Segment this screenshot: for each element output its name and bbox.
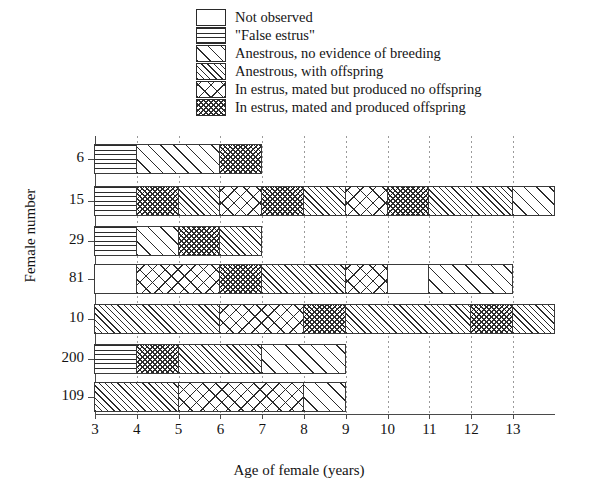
x-tick-label-6: 6 bbox=[205, 421, 235, 438]
legend-item-anestrous-no-breeding[interactable]: Anestrous, no evidence of breeding bbox=[196, 44, 592, 62]
y-axis-title: Female number bbox=[22, 146, 39, 326]
bar-segment-10-anestrous-offspring[interactable] bbox=[94, 304, 220, 334]
x-tick-7 bbox=[262, 414, 263, 419]
y-tick-29 bbox=[88, 241, 94, 242]
bar-segment-15-anestrous-offspring[interactable] bbox=[428, 186, 513, 216]
bar-segment-81-anestrous-no-breeding[interactable] bbox=[428, 264, 513, 294]
x-tick-label-5: 5 bbox=[164, 421, 194, 438]
bar-segment-10-estrus-offspring[interactable] bbox=[470, 304, 513, 334]
x-tick-label-11: 11 bbox=[414, 421, 444, 438]
x-tick-label-13: 13 bbox=[498, 421, 528, 438]
x-tick-5 bbox=[179, 414, 180, 419]
bar-segment-15-estrus-offspring[interactable] bbox=[136, 186, 179, 216]
legend-swatch-anestrous-no-breeding bbox=[196, 45, 226, 62]
legend-label-estrus-no-offspring: In estrus, mated but produced no offspri… bbox=[235, 81, 482, 98]
bar-segment-200-anestrous-offspring[interactable] bbox=[178, 344, 263, 374]
legend-item-not-observed[interactable]: Not observed bbox=[196, 8, 592, 26]
y-tick-81 bbox=[88, 279, 94, 280]
x-tick-4 bbox=[137, 414, 138, 419]
bar-segment-15-anestrous-offspring[interactable] bbox=[178, 186, 221, 216]
bar-segment-200-anestrous-no-breeding[interactable] bbox=[261, 344, 346, 374]
legend-item-estrus-offspring[interactable]: In estrus, mated and produced offspring bbox=[196, 98, 592, 116]
bar-segment-15-estrus-no-offspring[interactable] bbox=[219, 186, 262, 216]
bar-segment-109-anestrous-no-breeding[interactable] bbox=[303, 382, 346, 412]
x-axis-title: Age of female (years) bbox=[0, 462, 598, 479]
legend-swatch-anestrous-offspring bbox=[196, 63, 226, 80]
x-tick-11 bbox=[429, 414, 430, 419]
bar-segment-81-estrus-offspring[interactable] bbox=[219, 264, 262, 294]
bar-segment-15-estrus-no-offspring[interactable] bbox=[345, 186, 388, 216]
bar-segment-10-estrus-no-offspring[interactable] bbox=[219, 304, 304, 334]
x-tick-label-12: 12 bbox=[456, 421, 486, 438]
bar-segment-200-estrus-offspring[interactable] bbox=[136, 344, 179, 374]
bar-segment-29-false-estrus[interactable] bbox=[94, 226, 137, 256]
x-tick-3 bbox=[95, 414, 96, 419]
bar-segment-200-false-estrus[interactable] bbox=[94, 344, 137, 374]
bar-segment-29-anestrous-offspring[interactable] bbox=[219, 226, 262, 256]
bar-segment-15-anestrous-offspring[interactable] bbox=[303, 186, 346, 216]
bar-segment-6-estrus-offspring[interactable] bbox=[219, 144, 262, 174]
y-tick-10 bbox=[88, 319, 94, 320]
x-tick-12 bbox=[471, 414, 472, 419]
bar-segment-15-false-estrus[interactable] bbox=[94, 186, 137, 216]
x-axis-line bbox=[95, 414, 555, 415]
x-tick-8 bbox=[304, 414, 305, 419]
legend-label-estrus-offspring: In estrus, mated and produced offspring bbox=[235, 99, 466, 116]
bar-segment-6-anestrous-no-breeding[interactable] bbox=[136, 144, 221, 174]
bar-segment-81-not-observed[interactable] bbox=[94, 264, 137, 294]
legend-label-anestrous-offspring: Anestrous, with offspring bbox=[235, 63, 383, 80]
table-row bbox=[95, 304, 555, 334]
bar-segment-15-anestrous-no-breeding[interactable] bbox=[512, 186, 555, 216]
x-tick-9 bbox=[346, 414, 347, 419]
legend-swatch-not-observed bbox=[196, 9, 226, 26]
y-tick-label-200: 200 bbox=[24, 349, 84, 366]
bar-segment-15-estrus-offspring[interactable] bbox=[261, 186, 304, 216]
legend-label-false-estrus: "False estrus" bbox=[235, 27, 315, 44]
table-row bbox=[95, 264, 555, 294]
x-tick-6 bbox=[220, 414, 221, 419]
legend-label-anestrous-no-breeding: Anestrous, no evidence of breeding bbox=[235, 45, 441, 62]
x-tick-label-7: 7 bbox=[247, 421, 277, 438]
bar-segment-81-estrus-no-offspring[interactable] bbox=[345, 264, 388, 294]
table-row bbox=[95, 382, 555, 412]
legend-swatch-estrus-offspring bbox=[196, 99, 226, 116]
y-tick-label-109: 109 bbox=[24, 387, 84, 404]
table-row bbox=[95, 226, 555, 256]
x-tick-label-10: 10 bbox=[373, 421, 403, 438]
x-tick-10 bbox=[388, 414, 389, 419]
x-tick-label-4: 4 bbox=[122, 421, 152, 438]
legend-swatch-false-estrus bbox=[196, 27, 226, 44]
bar-segment-10-anestrous-offspring[interactable] bbox=[512, 304, 555, 334]
y-tick-109 bbox=[88, 397, 94, 398]
legend-label-not-observed: Not observed bbox=[235, 9, 313, 26]
table-row bbox=[95, 344, 555, 374]
figure-canvas: Not observed"False estrus"Anestrous, no … bbox=[0, 0, 598, 494]
legend-item-estrus-no-offspring[interactable]: In estrus, mated but produced no offspri… bbox=[196, 80, 592, 98]
bar-segment-29-anestrous-no-breeding[interactable] bbox=[136, 226, 179, 256]
table-row bbox=[95, 144, 555, 174]
bar-segment-109-estrus-no-offspring[interactable] bbox=[178, 382, 304, 412]
plot-area bbox=[95, 136, 555, 410]
bar-segment-29-estrus-offspring[interactable] bbox=[178, 226, 221, 256]
x-tick-13 bbox=[513, 414, 514, 419]
x-tick-label-3: 3 bbox=[80, 421, 110, 438]
legend-swatch-estrus-no-offspring bbox=[196, 81, 226, 98]
bar-segment-10-anestrous-offspring[interactable] bbox=[345, 304, 471, 334]
y-tick-200 bbox=[88, 359, 94, 360]
legend-item-false-estrus[interactable]: "False estrus" bbox=[196, 26, 592, 44]
legend-item-anestrous-offspring[interactable]: Anestrous, with offspring bbox=[196, 62, 592, 80]
bar-segment-109-anestrous-offspring[interactable] bbox=[94, 382, 179, 412]
bar-segment-81-estrus-no-offspring[interactable] bbox=[136, 264, 221, 294]
bar-segment-15-estrus-offspring[interactable] bbox=[387, 186, 430, 216]
bar-segment-6-false-estrus[interactable] bbox=[94, 144, 137, 174]
bar-segment-10-estrus-offspring[interactable] bbox=[303, 304, 346, 334]
chart-legend: Not observed"False estrus"Anestrous, no … bbox=[196, 8, 592, 116]
x-tick-label-9: 9 bbox=[331, 421, 361, 438]
y-tick-15 bbox=[88, 201, 94, 202]
x-tick-label-8: 8 bbox=[289, 421, 319, 438]
y-tick-6 bbox=[88, 159, 94, 160]
table-row bbox=[95, 186, 555, 216]
bar-segment-81-anestrous-offspring[interactable] bbox=[261, 264, 346, 294]
bar-segment-81-not-observed[interactable] bbox=[387, 264, 430, 294]
